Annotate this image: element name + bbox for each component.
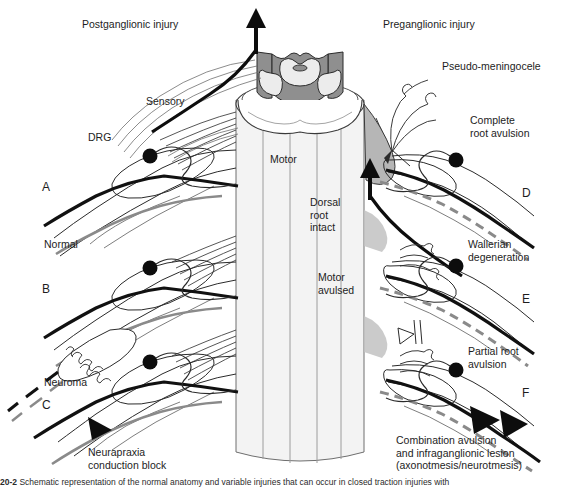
pseudo-meningocele-leader: [404, 80, 428, 94]
label-normal: Normal: [44, 238, 78, 251]
label-motor-avulsed: Motor avulsed: [318, 271, 354, 296]
panel-label-f: F: [522, 386, 529, 400]
label-sensory: Sensory: [146, 95, 185, 108]
panel-label-d: D: [522, 186, 531, 200]
figure-caption: 20-2 Schematic representation of the nor…: [0, 477, 563, 490]
label-partial-root-avulsion: Partial root avulsion: [468, 345, 519, 370]
label-neuroma: Neuroma: [44, 376, 87, 389]
drg-node-d: [449, 153, 464, 168]
caption-text: Schematic representation of the normal a…: [19, 477, 449, 487]
label-wallerian-degeneration: Wallerian degeneration: [468, 238, 529, 263]
label-dorsal-root-intact: Dorsal root intact: [310, 196, 340, 234]
neuroma-mass: [8, 329, 136, 421]
label-neurapraxia: Neurapraxia conduction block: [88, 446, 166, 471]
label-motor: Motor: [270, 153, 297, 166]
caption-number: 20-2: [0, 477, 17, 487]
label-drg: DRG: [88, 131, 111, 144]
drg-node-a: [143, 149, 158, 164]
drg-node-c: [143, 355, 158, 370]
panel-label-a: A: [42, 180, 50, 194]
drg-node-e: [449, 259, 464, 274]
drg-node-b: [143, 261, 158, 276]
cord-cross-section: [236, 52, 364, 134]
figure-root: Postganglionic injury Preganglionic inju…: [0, 0, 563, 490]
cord-shading-right: [364, 210, 387, 358]
label-complete-root-avulsion: Complete root avulsion: [470, 114, 530, 139]
title-postganglionic: Postganglionic injury: [82, 18, 178, 31]
panel-label-e: E: [522, 292, 530, 306]
title-preganglionic: Preganglionic injury: [383, 18, 475, 31]
drg-node-f: [449, 363, 464, 378]
panel-label-b: B: [42, 282, 50, 296]
label-combination: Combination avulsion and infraganglionic…: [396, 434, 522, 472]
panel-label-c: C: [42, 398, 51, 412]
label-pseudo-meningocele: Pseudo-meningocele: [442, 60, 541, 73]
